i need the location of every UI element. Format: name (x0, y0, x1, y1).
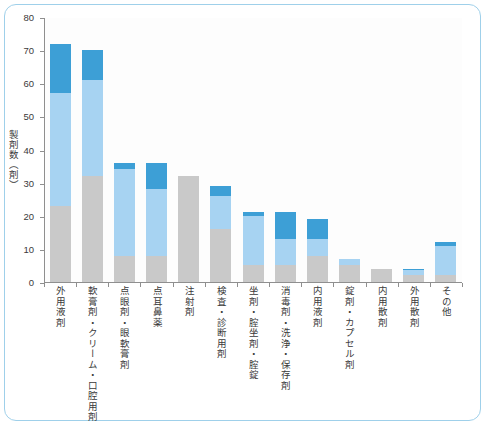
y-tick-label-40: 40 (23, 146, 34, 156)
y-tick-label-80: 80 (23, 13, 34, 23)
y-tick-label-30: 30 (23, 179, 34, 189)
plot-area: 01020304050607080 (44, 18, 462, 283)
x-tick (462, 283, 463, 287)
bar-segment[interactable] (435, 242, 456, 245)
x-axis-label: 注射剤 (184, 286, 194, 318)
bar-group[interactable] (50, 17, 71, 282)
chart-figure: 2011，2012 年調査 全国 250 床以上の 715 施設対象 代表 36… (0, 0, 485, 425)
bar-group[interactable] (178, 17, 199, 282)
bar-segment[interactable] (50, 206, 71, 282)
x-axis-label: 軟膏剤・クリーム・口腔用剤 (87, 286, 97, 423)
bar-segment[interactable] (307, 239, 328, 256)
y-tick-label-60: 60 (23, 80, 34, 90)
bar-group[interactable] (371, 17, 392, 282)
bar-segment[interactable] (435, 246, 456, 276)
bar-segment[interactable] (275, 212, 296, 239)
y-tick-label-10: 10 (23, 245, 34, 255)
y-tick-label-50: 50 (23, 113, 34, 123)
x-axis-label: 検査・診断用剤 (216, 286, 226, 360)
x-axis-label: 消毒剤・洗浄・保存剤 (280, 286, 290, 391)
bar-segment[interactable] (243, 212, 264, 215)
bar-segment[interactable] (82, 80, 103, 176)
bar-segment[interactable] (210, 229, 231, 282)
bar-group[interactable] (114, 17, 135, 282)
bar-segment[interactable] (371, 269, 392, 282)
x-axis-label: 点耳鼻薬 (152, 286, 162, 328)
bar-group[interactable] (82, 17, 103, 282)
y-tick-70: 70 (40, 51, 44, 52)
bar-segment[interactable] (50, 44, 71, 94)
bar-group[interactable] (243, 17, 264, 282)
x-axis-labels: 外用液剤軟膏剤・クリーム・口腔用剤点眼剤・眼軟膏剤点耳鼻薬注射剤検査・診断用剤坐… (44, 286, 462, 414)
y-tick-60: 60 (40, 84, 44, 85)
bar-segment[interactable] (210, 186, 231, 196)
bar-group[interactable] (339, 17, 360, 282)
x-axis-label: 内用液剤 (312, 286, 322, 328)
x-axis-label: 坐剤・腟坐剤・腟錠 (248, 286, 258, 381)
bar-segment[interactable] (275, 239, 296, 266)
y-tick-40: 40 (40, 151, 44, 152)
y-tick-label-20: 20 (23, 212, 34, 222)
bar-group[interactable] (146, 17, 167, 282)
bar-segment[interactable] (307, 256, 328, 283)
bar-segment[interactable] (339, 259, 360, 266)
bar-segment[interactable] (243, 216, 264, 266)
x-axis-label: 外用液剤 (55, 286, 65, 328)
bar-group[interactable] (435, 17, 456, 282)
bar-segment[interactable] (82, 176, 103, 282)
bar-segment[interactable] (146, 189, 167, 255)
bar-segment[interactable] (339, 265, 360, 282)
bar-segment[interactable] (403, 269, 424, 271)
bar-segment[interactable] (243, 265, 264, 282)
bar-group[interactable] (210, 17, 231, 282)
y-tick-80: 80 (40, 18, 44, 19)
bar-segment[interactable] (435, 275, 456, 282)
y-axis-line (44, 18, 45, 283)
y-axis-title: 製剤数（剤） (8, 130, 18, 190)
bar-segment[interactable] (178, 176, 199, 282)
x-axis-label: 外用散剤 (409, 286, 419, 328)
bar-group[interactable] (307, 17, 328, 282)
bar-group[interactable] (275, 17, 296, 282)
y-tick-30: 30 (40, 184, 44, 185)
bar-segment[interactable] (50, 93, 71, 206)
x-axis-line (44, 282, 462, 283)
bar-group[interactable] (403, 17, 424, 282)
x-axis-label: その他 (441, 286, 451, 318)
bar-segment[interactable] (403, 275, 424, 282)
y-tick-label-0: 0 (29, 278, 34, 288)
x-axis-label: 錠剤・カプセル剤 (344, 286, 354, 370)
y-tick-20: 20 (40, 217, 44, 218)
bar-segment[interactable] (403, 270, 424, 275)
bar-segment[interactable] (210, 196, 231, 229)
y-tick-50: 50 (40, 117, 44, 118)
bar-segment[interactable] (307, 219, 328, 239)
x-axis-label: 内用散剤 (377, 286, 387, 328)
bar-segment[interactable] (146, 256, 167, 283)
bar-segment[interactable] (146, 163, 167, 190)
bar-segment[interactable] (114, 256, 135, 283)
bar-segment[interactable] (114, 169, 135, 255)
y-tick-10: 10 (40, 250, 44, 251)
x-axis-label: 点眼剤・眼軟膏剤 (119, 286, 129, 370)
bar-segment[interactable] (82, 50, 103, 80)
bar-segment[interactable] (275, 265, 296, 282)
y-tick-label-70: 70 (23, 46, 34, 56)
bar-segment[interactable] (114, 163, 135, 170)
